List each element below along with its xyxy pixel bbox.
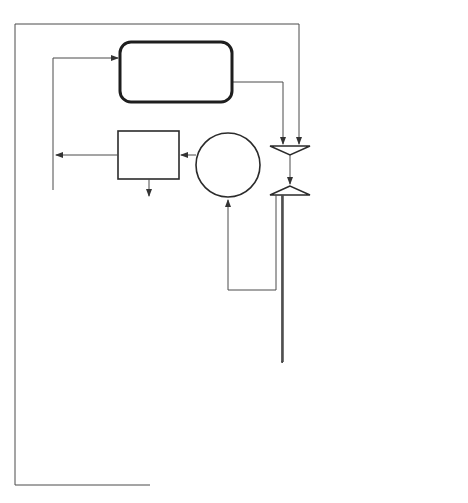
router-input-funnel [270, 146, 310, 155]
processors-node [120, 42, 232, 102]
demanding-operation-store-node [118, 131, 179, 179]
term-to-processors-line [53, 58, 118, 190]
skeleton-result-queue-node [196, 133, 260, 197]
submachine-diagram [0, 0, 468, 503]
router-to-skeleton-line [228, 195, 276, 290]
router-node [270, 146, 310, 195]
router-output-fan [270, 186, 310, 195]
